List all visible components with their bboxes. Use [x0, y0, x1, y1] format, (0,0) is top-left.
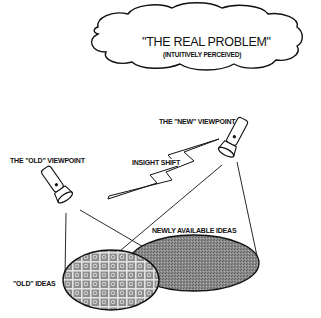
cloud-subtitle: (INTUITIVELY PERCEIVED): [163, 51, 241, 58]
cloud-title: "THE REAL PROBLEM": [142, 35, 271, 49]
new-viewpoint-label: THE "NEW" VIEWPOINT: [159, 118, 235, 125]
insight-shift-diagram: "THE REAL PROBLEM" (INTUITIVELY PERCEIVE…: [0, 0, 321, 318]
old-ideas-label: "OLD" IDEAS: [13, 280, 56, 287]
insight-shift-arrow: [108, 139, 219, 199]
old-viewpoint-label: THE "OLD" VIEWPOINT: [10, 157, 85, 164]
old-ideas-region: [63, 250, 159, 310]
insight-shift-label: INSIGHT SHIFT: [131, 159, 181, 166]
old-flashlight-icon: [38, 163, 74, 204]
newly-available-ideas-label: NEWLY AVAILABLE IDEAS: [152, 227, 236, 234]
